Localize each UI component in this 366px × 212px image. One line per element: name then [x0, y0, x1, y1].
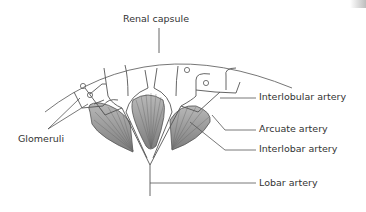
pyramid-right: [170, 106, 210, 150]
glomeruli-label: Glomeruli: [18, 134, 64, 144]
glomeruli-leaders: [48, 98, 88, 129]
interlobular-artery-label: Interlobular artery: [259, 92, 346, 102]
glomeruli-icons: [80, 67, 208, 97]
renal-capsule-label: Renal capsule: [123, 14, 189, 24]
arcuate-artery-label: Arcuate artery: [259, 124, 328, 134]
corner-shade: [350, 0, 366, 8]
interlobar-artery-label: Interlobar artery: [259, 144, 337, 154]
lobar-artery-label: Lobar artery: [259, 178, 318, 188]
pyramid-center: [132, 93, 165, 149]
